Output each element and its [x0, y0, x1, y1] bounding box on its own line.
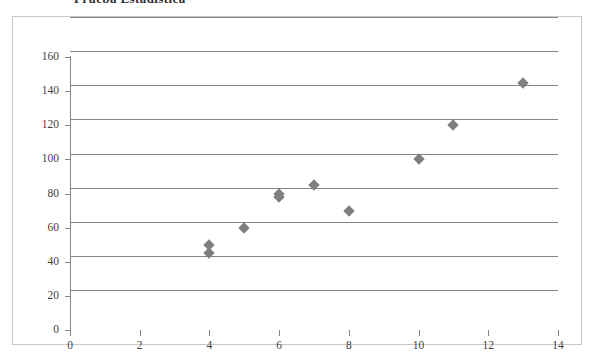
data-point-marker — [204, 239, 215, 250]
data-point-marker — [448, 120, 459, 131]
x-axis-tick-label: 8 — [329, 339, 369, 351]
x-axis-tick — [279, 330, 280, 336]
y-axis-tick-label: 160 — [15, 51, 59, 63]
x-axis-tick-label: 2 — [120, 339, 160, 351]
plot-area — [70, 57, 558, 330]
x-axis-tick — [488, 330, 489, 336]
x-axis-tick-label: 0 — [50, 339, 90, 351]
x-axis-tick — [558, 330, 559, 336]
y-axis-tick-label: 120 — [15, 119, 59, 131]
data-point-marker — [343, 205, 354, 216]
x-axis-tick-label: 4 — [189, 339, 229, 351]
x-axis-tick-label: 10 — [399, 339, 439, 351]
x-axis-tick-label: 6 — [259, 339, 299, 351]
data-point-marker — [413, 154, 424, 165]
gridline — [70, 51, 558, 52]
x-axis-tick — [70, 330, 71, 336]
data-point-marker — [239, 222, 250, 233]
x-axis-tick-label: 12 — [468, 339, 508, 351]
y-axis-tick-label: 60 — [15, 222, 59, 234]
y-axis-tick-label: 40 — [15, 256, 59, 268]
gridline — [70, 17, 558, 18]
y-axis-tick-label: 140 — [15, 85, 59, 97]
x-axis-tick-label: 14 — [538, 339, 578, 351]
page-heading: Prueba Estadistica — [74, 0, 186, 5]
x-axis-tick — [140, 330, 141, 336]
x-axis-tick — [349, 330, 350, 336]
y-axis-tick-label: 0 — [15, 324, 59, 336]
y-axis-tick-label: 100 — [15, 153, 59, 165]
x-axis-tick — [419, 330, 420, 336]
x-axis-tick — [209, 330, 210, 336]
chart-frame: 020406080100120140160 02468101214 — [12, 16, 582, 345]
data-point-marker — [308, 179, 319, 190]
y-axis-tick-label: 20 — [15, 290, 59, 302]
data-point-marker — [517, 77, 528, 88]
y-axis-tick-label: 80 — [15, 188, 59, 200]
